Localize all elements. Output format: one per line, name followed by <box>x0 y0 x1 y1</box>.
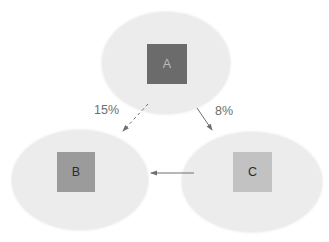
node-c-label: C <box>248 166 257 179</box>
edge-a-to-c-arrow <box>197 108 212 130</box>
edge-a-to-b-percentage-label: 15% <box>94 104 119 117</box>
node-c-box: C <box>233 152 272 192</box>
node-a-label: A <box>163 58 171 71</box>
node-b-label: B <box>72 166 80 179</box>
node-b-box: B <box>57 152 95 192</box>
transition-diagram: A B C 15% 8% <box>0 0 329 242</box>
edge-a-to-c-percentage-label: 8% <box>215 105 233 118</box>
node-a-box: A <box>147 44 187 84</box>
